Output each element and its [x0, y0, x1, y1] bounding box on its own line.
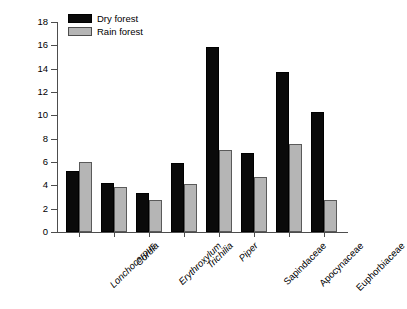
- bar-lonchocarpus-dry-forest: [66, 171, 79, 232]
- bar-piper-dry-forest: [206, 47, 219, 233]
- y-tick-8: 8: [51, 139, 57, 140]
- y-tick-label-4: 4: [26, 179, 48, 190]
- bar-apocynaceae-rain-forest: [289, 144, 302, 232]
- bar-trichilia-dry-forest: [171, 163, 184, 232]
- bar-group-lonchocarpus: [66, 22, 92, 232]
- y-tick-16: 16: [51, 45, 57, 46]
- y-tick-label-16: 16: [26, 39, 48, 50]
- bar-euphorbiaceae-rain-forest: [324, 200, 337, 232]
- y-tick-label-8: 8: [26, 133, 48, 144]
- y-tick-label-6: 6: [26, 156, 48, 167]
- x-tick-piper: [219, 232, 220, 237]
- y-tick-2: 2: [51, 209, 57, 210]
- x-axis-label-cordia: Cordia: [133, 240, 161, 268]
- plot-area: 024681012141618 LonchocarpusCordiaErythr…: [57, 22, 348, 232]
- y-axis-line: [57, 22, 58, 233]
- bar-trichilia-rain-forest: [184, 184, 197, 232]
- y-tick-6: 6: [51, 162, 57, 163]
- x-tick-erythroxylum: [149, 232, 150, 237]
- x-tick-lonchocarpus: [79, 232, 80, 237]
- y-tick-label-18: 18: [26, 16, 48, 27]
- bar-lonchocarpus-rain-forest: [79, 162, 92, 232]
- y-tick-label-10: 10: [26, 109, 48, 120]
- y-tick-4: 4: [51, 185, 57, 186]
- bar-group-apocynaceae: [276, 22, 302, 232]
- y-tick-10: 10: [51, 115, 57, 116]
- bar-apocynaceae-dry-forest: [276, 72, 289, 232]
- x-axis-line: [51, 232, 348, 233]
- y-tick-12: 12: [51, 92, 57, 93]
- y-tick-18: 18: [51, 22, 57, 23]
- bar-erythroxylum-rain-forest: [149, 200, 162, 232]
- x-tick-trichilia: [184, 232, 185, 237]
- y-tick-label-12: 12: [26, 86, 48, 97]
- bar-euphorbiaceae-dry-forest: [311, 112, 324, 232]
- bar-group-erythroxylum: [136, 22, 162, 232]
- bar-piper-rain-forest: [219, 150, 232, 232]
- x-tick-sapindaceae: [254, 232, 255, 237]
- x-axis-label-piper: Piper: [236, 240, 259, 263]
- bar-sapindaceae-dry-forest: [241, 153, 254, 232]
- y-tick-label-0: 0: [26, 226, 48, 237]
- bar-group-cordia: [101, 22, 127, 232]
- bar-group-trichilia: [171, 22, 197, 232]
- bar-group-euphorbiaceae: [311, 22, 337, 232]
- y-tick-0: 0: [51, 232, 57, 233]
- bar-cordia-rain-forest: [114, 187, 127, 233]
- x-tick-euphorbiaceae: [324, 232, 325, 237]
- x-tick-cordia: [114, 232, 115, 237]
- y-tick-label-14: 14: [26, 63, 48, 74]
- bar-group-piper: [206, 22, 232, 232]
- bar-cordia-dry-forest: [101, 183, 114, 232]
- bar-sapindaceae-rain-forest: [254, 177, 267, 232]
- y-tick-label-2: 2: [26, 203, 48, 214]
- bar-group-sapindaceae: [241, 22, 267, 232]
- y-tick-14: 14: [51, 69, 57, 70]
- x-tick-apocynaceae: [289, 232, 290, 237]
- bar-erythroxylum-dry-forest: [136, 193, 149, 232]
